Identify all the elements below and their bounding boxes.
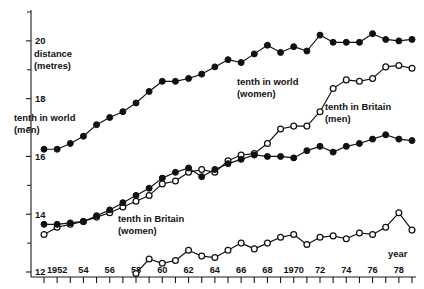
data-point	[396, 136, 402, 142]
data-point	[304, 123, 310, 129]
data-point	[251, 152, 257, 158]
y-tick-label: 14	[35, 209, 46, 220]
data-point	[212, 255, 218, 261]
x-tick-label: 78	[394, 265, 404, 275]
x-tick-label: 72	[315, 265, 325, 275]
series-2	[41, 132, 415, 228]
series-path	[44, 65, 412, 234]
data-point	[172, 78, 178, 84]
data-point	[265, 240, 271, 246]
data-point	[251, 246, 257, 252]
data-point	[54, 221, 60, 227]
data-point	[41, 232, 47, 238]
data-point	[396, 38, 402, 44]
series-1	[41, 63, 415, 238]
data-point	[146, 256, 152, 262]
series-path	[44, 34, 412, 150]
data-point	[107, 207, 113, 213]
data-point	[199, 71, 205, 77]
label-world-men-line2: (men)	[14, 124, 40, 135]
data-point	[133, 198, 139, 204]
x-tick-label: 64	[210, 265, 221, 275]
data-point	[317, 109, 323, 115]
x-tick-label: 62	[183, 265, 193, 275]
data-point	[225, 161, 231, 167]
data-point	[94, 213, 100, 219]
data-point	[120, 109, 126, 115]
data-point	[356, 140, 362, 146]
data-point	[80, 133, 86, 139]
data-point	[186, 247, 192, 253]
data-point	[199, 174, 205, 180]
label-y-axis-title-line2: (metres)	[34, 60, 71, 71]
data-point	[357, 78, 363, 84]
y-tick-label: 12	[35, 266, 45, 277]
data-point	[370, 76, 376, 82]
data-point	[383, 64, 389, 70]
chart-container: 1214161820 19525456586062646668197072747…	[0, 0, 424, 289]
data-point	[291, 44, 297, 50]
data-point	[41, 146, 47, 152]
data-point	[172, 169, 178, 175]
data-point	[330, 39, 336, 45]
data-point	[159, 181, 165, 187]
data-point	[278, 234, 284, 240]
data-point	[94, 122, 100, 128]
data-point	[212, 166, 218, 172]
data-point	[238, 240, 244, 246]
data-point	[291, 123, 297, 129]
label-world-women: tenth in world	[237, 76, 299, 87]
label-britain-men: tenth in Britain	[325, 101, 391, 112]
data-point	[396, 210, 402, 216]
data-point	[225, 57, 231, 63]
data-point	[133, 271, 139, 277]
data-point	[54, 146, 60, 152]
data-series-group	[41, 31, 415, 277]
data-point	[409, 65, 415, 71]
y-tick-label: 20	[35, 35, 45, 46]
x-tick-label: 1952	[47, 265, 67, 275]
data-point	[291, 232, 297, 238]
data-point	[146, 193, 152, 199]
data-point	[304, 148, 310, 154]
data-point	[80, 218, 86, 224]
data-point	[133, 192, 139, 198]
data-point	[304, 242, 310, 248]
data-point	[238, 156, 244, 162]
data-point	[278, 126, 284, 132]
data-point	[396, 63, 402, 69]
x-tick-label: 54	[78, 265, 89, 275]
data-point	[330, 149, 336, 155]
data-point	[317, 143, 323, 149]
label-y-axis-title: distance	[34, 48, 72, 59]
label-britain-women: tenth in Britain	[118, 213, 184, 224]
x-tick-label: 68	[262, 265, 272, 275]
data-point	[199, 253, 205, 259]
data-point	[264, 153, 270, 159]
data-point	[317, 32, 323, 38]
label-world-men: tenth in world	[14, 112, 76, 123]
label-britain-men-line2: (men)	[325, 113, 351, 124]
x-tick-label: 1970	[283, 265, 303, 275]
data-point	[291, 155, 297, 161]
series-0	[41, 31, 415, 153]
data-point	[238, 60, 244, 66]
data-point	[278, 153, 284, 159]
data-point	[251, 51, 257, 57]
data-point	[212, 64, 218, 70]
series-path	[44, 135, 412, 225]
data-point	[67, 140, 73, 146]
label-britain-women-line2: (women)	[118, 225, 157, 236]
x-tick-label: 74	[341, 265, 352, 275]
label-x-axis-title: year	[388, 248, 408, 259]
x-tick-label: 66	[236, 265, 246, 275]
data-point	[120, 200, 126, 206]
data-point	[409, 227, 415, 233]
data-point	[383, 132, 389, 138]
data-point	[199, 167, 205, 173]
x-tick-label: 76	[367, 265, 377, 275]
data-point	[159, 78, 165, 84]
data-point	[133, 100, 139, 106]
data-point	[67, 220, 73, 226]
data-point	[330, 233, 336, 239]
